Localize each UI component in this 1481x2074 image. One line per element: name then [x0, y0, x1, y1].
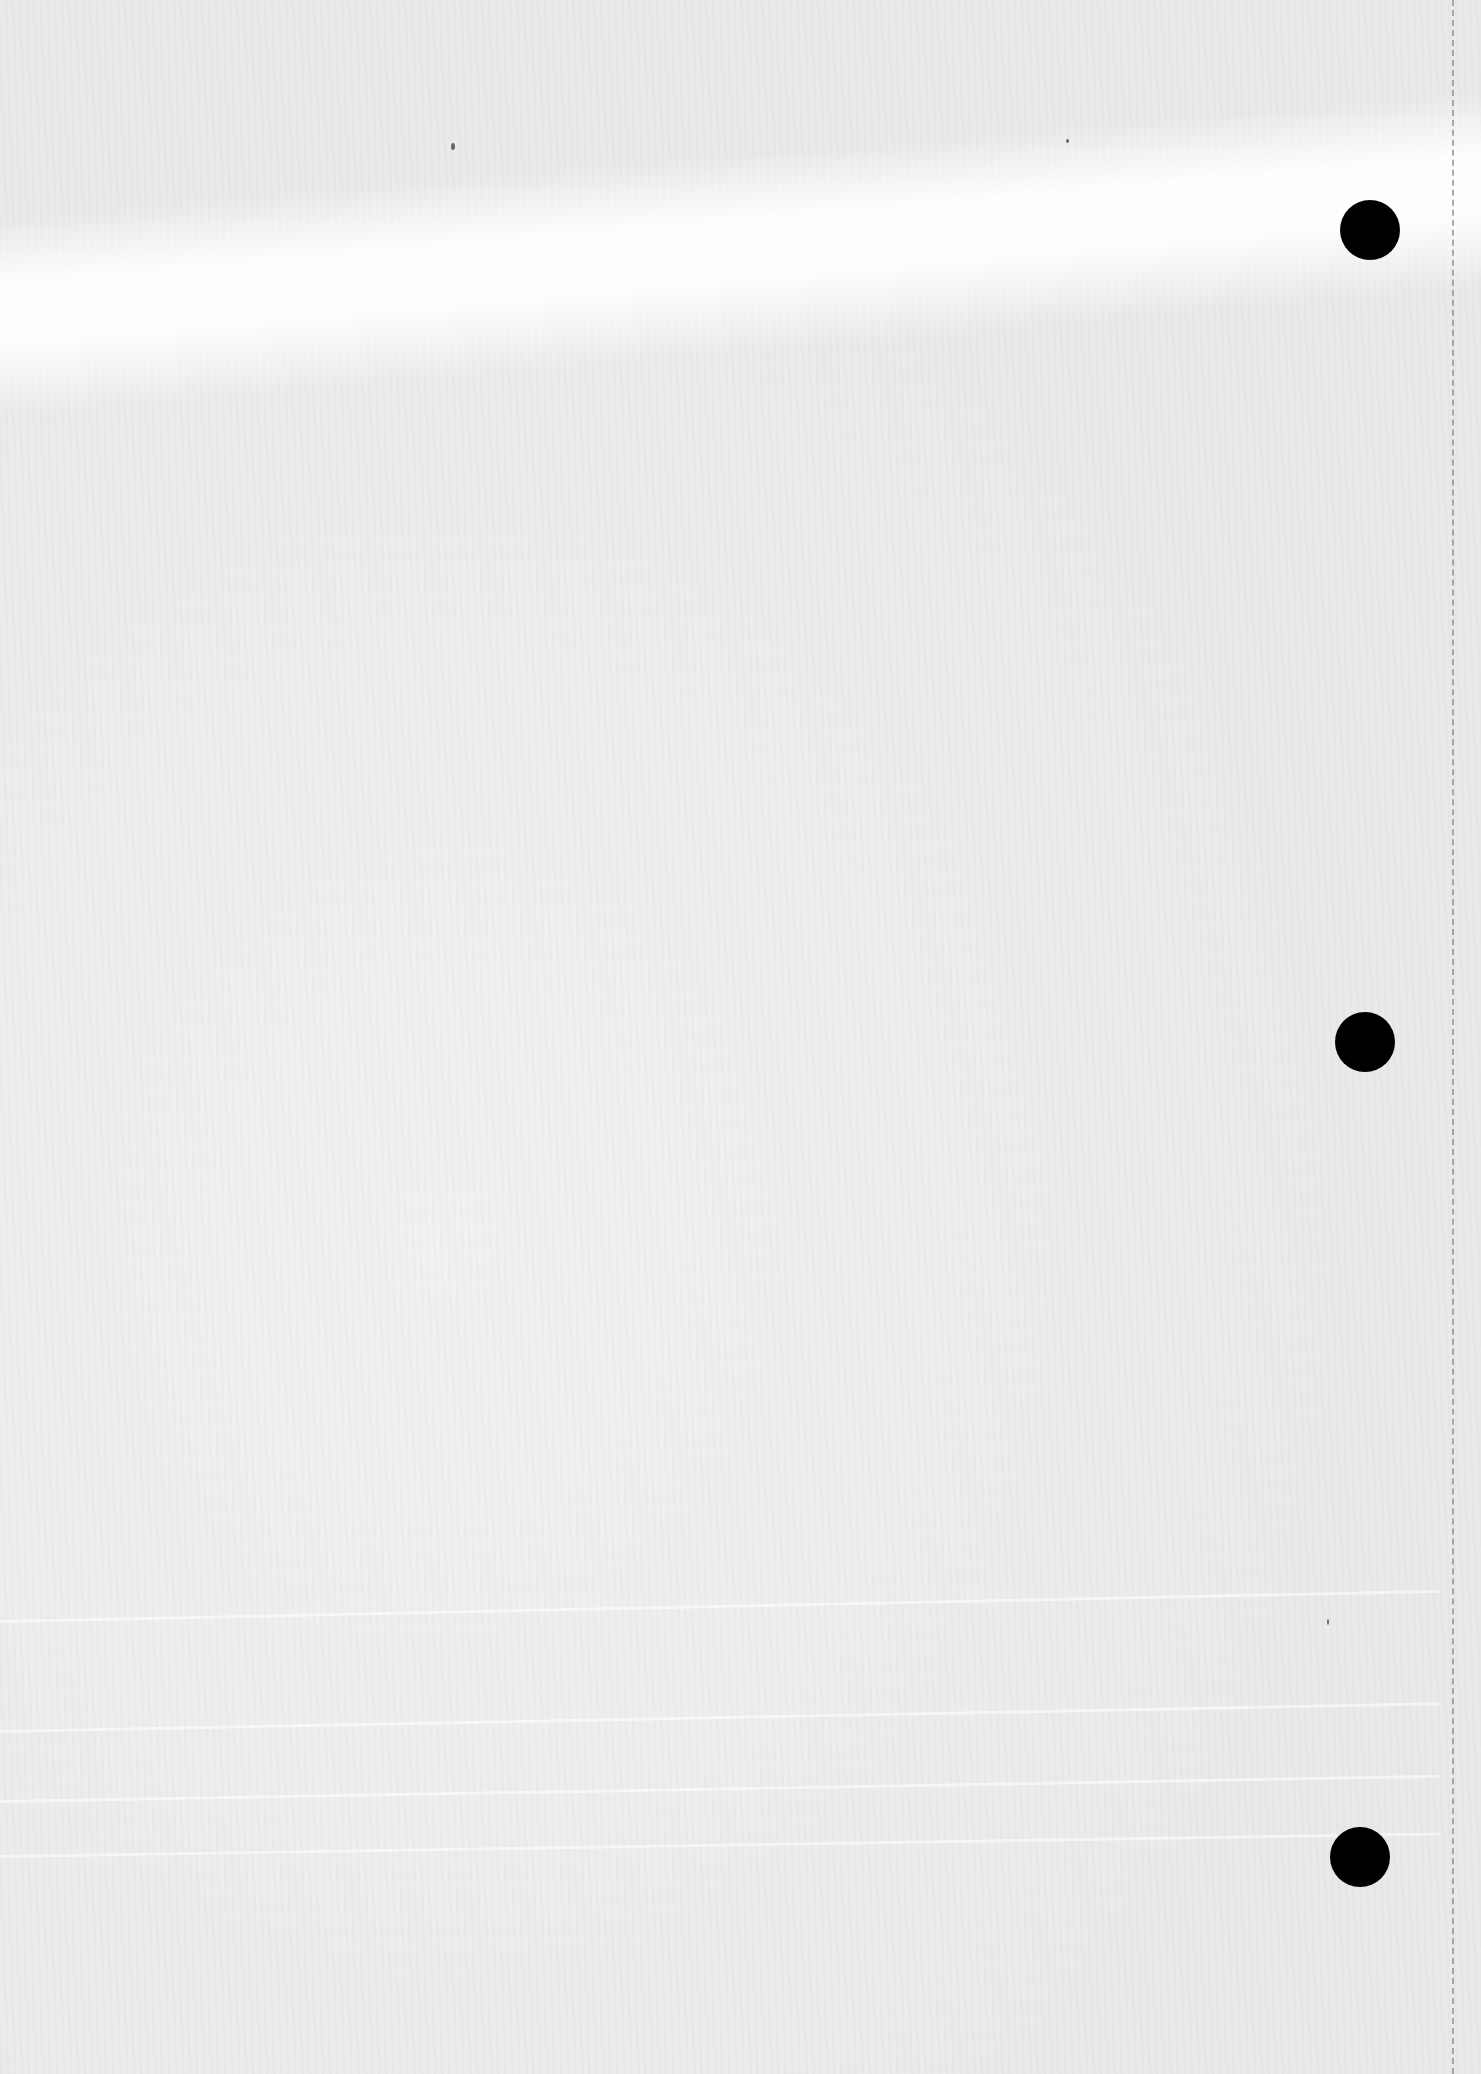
faint-ruled-line: [0, 1832, 1440, 1858]
paper-speck: [1327, 1619, 1329, 1625]
faint-ruled-line: [0, 1590, 1440, 1623]
punch-hole-top: [1340, 200, 1400, 260]
punch-hole-middle: [1335, 1012, 1395, 1072]
blank-page: [0, 0, 1481, 2074]
paper-speck: [1066, 139, 1069, 143]
faint-ruled-line: [0, 1775, 1440, 1803]
faint-ruled-line: [0, 1702, 1440, 1733]
paper-speck: [451, 143, 455, 150]
perforation-line: [1452, 0, 1454, 2074]
punch-hole-bottom: [1330, 1827, 1390, 1887]
